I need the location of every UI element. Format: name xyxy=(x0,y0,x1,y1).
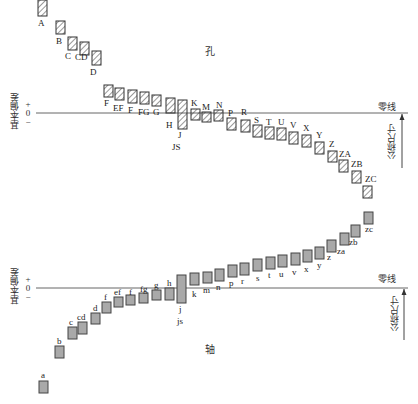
hole-deviation-box xyxy=(140,92,149,104)
hole-deviation-box xyxy=(302,135,311,147)
shaft-deviation-label: b xyxy=(57,337,62,346)
hole-deviation-label: B xyxy=(56,37,62,46)
hole-deviation-box xyxy=(202,112,211,122)
shaft-deviation-box xyxy=(340,233,349,245)
shaft-deviation-box xyxy=(139,293,148,303)
shaft-deviation-label: j xyxy=(179,305,182,314)
shaft-deviation-label: h xyxy=(167,279,172,288)
shaft-deviation-label: ef xyxy=(114,288,121,297)
shaft-deviation-box xyxy=(114,297,123,307)
shaft-deviation-label: za xyxy=(337,247,345,256)
hole-deviation-label: FG xyxy=(138,108,150,117)
hole-deviation-label: G xyxy=(153,108,160,117)
hole-deviation-label: F xyxy=(104,99,109,108)
hole-deviation-box xyxy=(339,160,348,172)
shaft-deviation-label: z xyxy=(327,253,331,262)
shaft-deviation-box xyxy=(278,255,287,267)
hole-deviation-label: ZB xyxy=(351,160,363,169)
hole-deviation-box xyxy=(92,51,101,65)
hole-deviation-label: S xyxy=(254,116,259,125)
hole-deviation-box xyxy=(315,142,324,154)
shaft-minus-sign: − xyxy=(24,293,32,301)
shaft-js-label: js xyxy=(177,317,183,326)
shaft-deviation-label: d xyxy=(93,304,98,313)
shaft-deviation-box xyxy=(39,381,48,393)
hole-minus-sign: − xyxy=(24,118,32,126)
hole-deviation-box xyxy=(152,95,161,106)
hole-deviation-boxes xyxy=(38,0,372,198)
hole-deviation-box xyxy=(289,132,298,144)
hole-deviation-label: U xyxy=(278,118,285,127)
shaft-deviation-box xyxy=(228,265,237,277)
shaft-deviation-label: zc xyxy=(365,225,373,234)
hole-deviation-label: N xyxy=(216,101,223,110)
hole-deviation-box xyxy=(38,0,47,16)
shaft-deviation-label: g xyxy=(154,281,159,290)
shaft-deviation-label: f xyxy=(129,288,132,297)
hole-deviation-box xyxy=(166,98,175,113)
shaft-zero-line-label: 零线 xyxy=(378,274,396,284)
shaft-deviation-label: x xyxy=(304,265,309,274)
shaft-deviation-label: k xyxy=(192,290,197,299)
shaft-deviation-box xyxy=(351,225,360,237)
shaft-deviation-label: zb xyxy=(349,238,358,247)
shaft-deviation-box xyxy=(152,290,161,300)
hole-deviation-label: CD xyxy=(75,53,88,62)
shaft-deviation-box xyxy=(203,272,212,283)
shaft-deviation-label: s xyxy=(256,274,260,283)
hole-deviation-box xyxy=(241,120,250,132)
shaft-axis-label: 基本偏差 xyxy=(9,268,19,304)
hole-arrowhead-icon xyxy=(400,114,405,120)
shaft-nominal-size-label: 公称尺寸 xyxy=(389,296,399,332)
hole-deviation-box xyxy=(191,109,200,120)
hole-deviation-box xyxy=(56,21,65,34)
hole-zero-sign: 0 xyxy=(24,109,32,117)
shaft-deviation-box xyxy=(55,346,64,358)
hole-deviation-label: H xyxy=(166,121,173,130)
hole-deviation-label: R xyxy=(241,108,247,117)
shaft-deviation-label: n xyxy=(216,283,221,292)
hole-deviation-label: ZC xyxy=(365,175,377,184)
hole-deviation-box xyxy=(68,37,77,50)
hole-deviation-label: Z xyxy=(329,140,335,149)
shaft-deviation-box xyxy=(327,240,336,252)
shaft-deviation-label: fg xyxy=(140,285,148,294)
hole-deviation-label: C xyxy=(65,52,71,61)
hole-deviation-label: ZA xyxy=(339,150,351,159)
hole-deviation-label: T xyxy=(266,118,272,127)
shaft-deviation-box xyxy=(253,259,262,271)
shaft-deviation-box xyxy=(315,247,324,259)
hole-deviation-label: X xyxy=(303,124,310,133)
shaft-deviation-label: y xyxy=(317,261,322,270)
hole-deviation-box xyxy=(328,151,337,162)
hole-deviation-box xyxy=(277,128,286,140)
shaft-deviation-label: r xyxy=(241,277,244,286)
shaft-deviation-label: u xyxy=(279,270,284,279)
shaft-deviation-label: f xyxy=(104,293,107,302)
hole-deviation-label: P xyxy=(228,109,233,118)
hole-deviation-box xyxy=(363,186,372,198)
shaft-deviation-box xyxy=(240,263,249,275)
shaft-deviation-box xyxy=(78,322,87,334)
hole-deviation-box xyxy=(104,85,113,97)
shaft-deviation-box xyxy=(190,273,199,285)
shaft-deviation-label: t xyxy=(268,271,271,280)
shaft-deviation-label: c xyxy=(69,318,73,327)
hole-deviation-label: J xyxy=(178,131,182,140)
shaft-deviation-label: a xyxy=(41,371,45,380)
hole-deviation-box xyxy=(128,90,137,103)
shaft-deviation-label: m xyxy=(203,286,210,295)
shaft-deviation-box xyxy=(364,212,373,224)
hole-deviation-box xyxy=(352,171,361,183)
shaft-deviation-box xyxy=(303,250,312,262)
shaft-deviation-box xyxy=(291,253,300,265)
hole-title: 孔 xyxy=(205,47,215,57)
hole-deviation-label: F xyxy=(128,106,133,115)
shaft-deviation-boxes xyxy=(39,212,373,393)
shaft-deviation-box xyxy=(165,288,174,300)
shaft-deviation-box xyxy=(102,302,111,313)
hole-js-label: JS xyxy=(172,143,181,152)
shaft-deviation-box xyxy=(68,327,77,339)
hole-deviation-label: EF xyxy=(113,104,124,113)
fundamental-deviation-diagram: ABCCDDFEFFFGGHJKMNPRSTUVXYZZAZBZC abccdd… xyxy=(0,0,418,404)
